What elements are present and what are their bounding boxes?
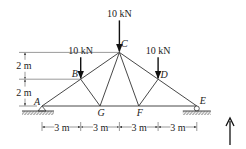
member-CD xyxy=(119,52,158,79)
member-FD xyxy=(139,79,158,106)
joint-label-F: F xyxy=(136,107,144,118)
joint-label-E: E xyxy=(199,95,206,106)
joint-label-C: C xyxy=(121,38,128,49)
load-label-D: 10 kN xyxy=(146,45,171,56)
dimensions: 3 m3 m3 m3 m2 m2 m xyxy=(16,52,196,132)
dim-label-h-0: 3 m xyxy=(54,122,70,133)
member-GC xyxy=(100,52,119,106)
ground-hatch-A xyxy=(22,111,54,115)
dim-label-h-3: 3 m xyxy=(170,122,186,133)
roller-support-E xyxy=(194,106,199,111)
joint-label-A: A xyxy=(33,96,41,107)
up-arrow-icon xyxy=(226,118,234,145)
dim-label-h-1: 3 m xyxy=(93,122,109,133)
truss-diagram: 10 kN10 kN10 kN ABCDEFG 3 m3 m3 m3 m2 m2… xyxy=(0,0,246,149)
load-label-B: 10 kN xyxy=(68,45,93,56)
member-BG xyxy=(81,79,100,106)
ground-hatch-E xyxy=(183,111,211,115)
member-DE xyxy=(158,79,197,106)
joint-label-G: G xyxy=(97,107,104,118)
supports xyxy=(22,106,211,115)
member-CF xyxy=(119,52,138,106)
dim-label-h-2: 3 m xyxy=(132,122,148,133)
loads: 10 kN10 kN10 kN xyxy=(68,8,170,78)
member-BC xyxy=(81,52,120,79)
dim-label-v-1: 2 m xyxy=(16,87,32,98)
joint-label-B: B xyxy=(72,68,78,79)
member-AB xyxy=(42,79,81,106)
dim-label-v-0: 2 m xyxy=(16,60,32,71)
load-label-C: 10 kN xyxy=(107,8,132,19)
joint-label-D: D xyxy=(159,69,168,80)
